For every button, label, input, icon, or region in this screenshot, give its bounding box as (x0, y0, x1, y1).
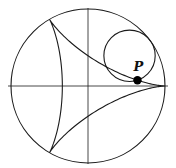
deltoid-diagram: P (0, 0, 176, 168)
rolling-circle (104, 30, 155, 81)
point-p-marker (133, 76, 141, 84)
point-p-label: P (132, 59, 144, 74)
